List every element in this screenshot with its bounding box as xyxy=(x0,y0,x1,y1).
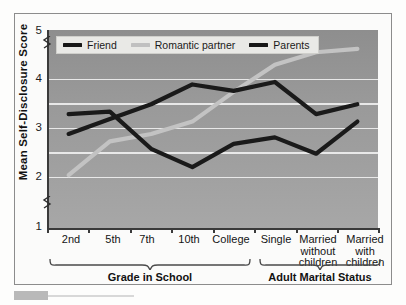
x-tick-3 xyxy=(171,228,173,233)
legend-label-friend: Friend xyxy=(87,39,117,51)
legend-label-romantic-partner: Romantic partner xyxy=(155,39,236,51)
legend-item-parents: Parents xyxy=(249,39,309,51)
brace-grade-in-school xyxy=(48,258,252,270)
legend-swatch-romantic-partner xyxy=(131,43,150,47)
y-axis-break-bottom xyxy=(40,196,50,208)
y-tick-5: 5 xyxy=(20,24,42,36)
y-tick-3: 3 xyxy=(20,121,42,133)
legend: Friend Romantic partner Parents xyxy=(56,36,319,54)
x-tick-5 xyxy=(254,228,256,233)
x-tick-1 xyxy=(88,228,90,233)
plot-area xyxy=(48,30,378,228)
y-tick-2: 2 xyxy=(20,170,42,182)
figure: Mean Self-Disclosure Score Friend Romant… xyxy=(0,0,406,305)
legend-item-romantic-partner: Romantic partner xyxy=(131,39,236,51)
x-tick-0 xyxy=(47,228,49,233)
legend-label-parents: Parents xyxy=(273,39,309,51)
legend-swatch-parents xyxy=(249,43,268,47)
bottom-rule-decoration xyxy=(48,295,134,297)
x-label-2nd: 2nd xyxy=(48,234,94,246)
y-tick-4: 4 xyxy=(20,72,42,84)
x-tick-7 xyxy=(337,228,339,233)
x-label-college: College xyxy=(203,234,259,246)
x-tick-2 xyxy=(130,228,132,233)
series-lines xyxy=(48,30,378,228)
y-axis-break-top xyxy=(40,36,50,48)
brace-adult-marital-status xyxy=(258,258,382,270)
y-tick-1: 1 xyxy=(20,220,42,232)
bottom-tab-decoration xyxy=(14,291,48,300)
x-label-7th: 7th xyxy=(124,234,170,246)
group-label-adult-marital-status: Adult Marital Status xyxy=(256,271,384,283)
legend-item-friend: Friend xyxy=(63,39,117,51)
group-label-grade-in-school: Grade in School xyxy=(48,271,252,283)
x-tick-6 xyxy=(296,228,298,233)
legend-swatch-friend xyxy=(63,43,82,47)
